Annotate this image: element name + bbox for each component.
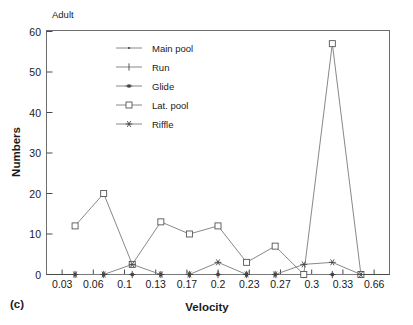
- legend-item-label: Riffle: [152, 119, 173, 130]
- velocity-numbers-line-chart: 0 10 20 30 40 50: [0, 0, 413, 325]
- x-tick-label: 0.27: [270, 278, 291, 290]
- data-point-marker-open-square: [215, 223, 221, 229]
- x-axis-title: Velocity: [185, 301, 229, 313]
- data-point-marker-open-square: [301, 272, 307, 278]
- data-point-marker-open-square: [329, 41, 335, 47]
- y-tick-label: 20: [29, 188, 41, 200]
- data-point-marker-open-square: [186, 231, 192, 237]
- y-tick-label: 60: [29, 26, 41, 38]
- x-tick-label: 0.2: [211, 278, 226, 290]
- figure-container: 0 10 20 30 40 50: [0, 0, 413, 325]
- x-tick-label: 0.23: [239, 278, 260, 290]
- x-tick-label: 0.66: [364, 278, 385, 290]
- x-tick-label: 0.1: [117, 278, 132, 290]
- x-tick-label: 0.13: [145, 278, 166, 290]
- x-tick-label: 0.3: [304, 278, 319, 290]
- y-tick-label: 50: [29, 66, 41, 78]
- legend-item-label: Main pool: [152, 43, 193, 54]
- y-tick-label: 10: [29, 228, 41, 240]
- data-point-marker-open-square: [272, 243, 278, 249]
- y-axis-title: Numbers: [10, 127, 22, 177]
- panel-label: (c): [10, 298, 24, 310]
- panel-subtitle: Adult: [52, 9, 74, 20]
- x-tick-label: 0.03: [52, 278, 73, 290]
- y-tick-label: 40: [29, 107, 41, 119]
- x-tick-label: 0.17: [177, 278, 198, 290]
- data-point-marker-open-square: [101, 191, 107, 197]
- y-tick-label: 0: [35, 269, 41, 281]
- data-point-marker-dot: [128, 47, 130, 49]
- chart-background: [0, 0, 413, 325]
- legend-item-label: Lat. pool: [152, 100, 188, 111]
- data-point-marker-open-square: [244, 259, 250, 265]
- x-tick-label: 0.33: [333, 278, 354, 290]
- data-point-marker-open-square: [126, 102, 132, 108]
- legend-item-label: Run: [152, 62, 169, 73]
- legend-item-label: Glide: [152, 81, 174, 92]
- x-tick-label: 0.06: [83, 278, 104, 290]
- data-point-marker-open-square: [72, 223, 78, 229]
- data-point-marker-open-square: [158, 219, 164, 225]
- y-tick-label: 30: [29, 147, 41, 159]
